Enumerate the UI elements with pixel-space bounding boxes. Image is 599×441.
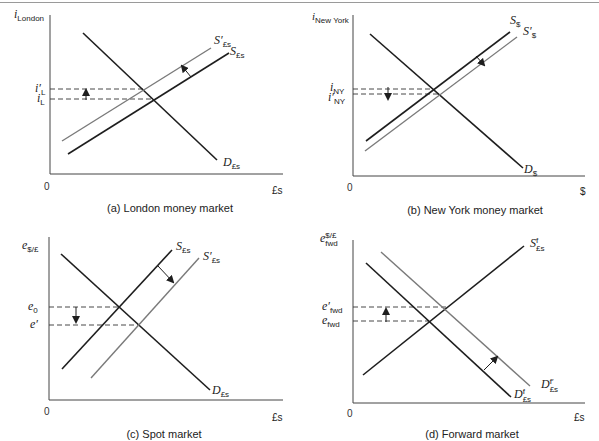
supply-new-label: S′£s [214,34,231,49]
shift-arrow-icon [476,56,484,65]
panel-caption: (c) Spot market [44,428,284,440]
supply-new-label: S′$ [523,25,536,40]
demand-curve [61,254,210,390]
shift-arrow-icon [484,357,497,370]
y-axis-label: e$/£ [22,239,38,254]
supply-curve [62,250,172,369]
supply-curve-new [62,48,211,141]
panel-caption: (a) London money market [50,202,290,214]
panel-b-new-york [353,15,585,176]
supply-curve-new [91,258,199,378]
demand-new-label: Df′£s [541,378,558,394]
panel-c-spot [49,237,283,400]
demand-label: D$ [524,163,537,178]
level-label-new: e′ [30,318,38,330]
shift-arrow-icon [158,266,173,282]
origin-label: 0 [347,408,353,419]
origin-label: 0 [347,182,353,193]
origin-label: 0 [44,181,50,192]
y-axis-label: e$/£fwd [320,232,338,248]
supply-new-label: S′£s [203,250,220,265]
demand-label: D£s [212,384,229,399]
demand-curve-new [381,252,530,386]
level-label-new: i′NY [328,91,345,106]
supply-label: S$ [510,14,520,29]
demand-curve [83,33,217,160]
supply-curve [68,53,229,154]
level-label: efwd [322,314,340,329]
x-axis-label: £s [272,186,283,196]
level-label: iL [37,92,45,107]
panel-caption: (b) New York money market [355,204,595,216]
supply-label: S£s [230,45,244,60]
x-axis-label: £s [272,413,283,423]
demand-curve [366,263,511,397]
demand-label: Df£s [514,388,531,404]
x-axis-label: £s [574,413,585,423]
shift-arrow-icon [182,66,191,77]
supply-curve [366,32,510,141]
supply-curve [363,246,524,375]
x-axis-label: $ [580,187,586,197]
demand-curve [370,34,523,168]
y-axis-label: iLondon [14,8,44,23]
supply-label: S£s [176,240,190,255]
panel-caption: (d) Forward market [352,428,592,440]
origin-label: 0 [44,406,50,417]
panel-a-london [50,15,283,174]
demand-label: D£s [223,156,240,171]
diagram-canvas [0,0,599,441]
level-label: e0 [28,300,38,315]
y-axis-label: iNew York [312,11,349,25]
supply-label: Sf£s [530,237,544,253]
